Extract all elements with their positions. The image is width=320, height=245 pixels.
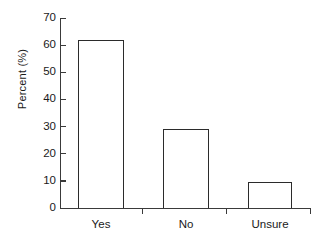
x-tick-1 — [226, 209, 227, 214]
y-tick-label-70: 70 — [16, 12, 56, 24]
y-tick-50 — [61, 72, 66, 73]
y-tick-40 — [61, 99, 66, 100]
y-tick-10 — [61, 180, 66, 181]
x-label-unsure: Unsure — [251, 218, 288, 230]
y-tick-20 — [61, 153, 66, 154]
y-tick-label-50: 50 — [16, 66, 56, 78]
bar-yes — [78, 40, 124, 208]
y-tick-30 — [61, 126, 66, 127]
y-tick-label-60: 60 — [16, 39, 56, 51]
y-tick-label-0: 0 — [16, 202, 56, 214]
x-tick-0 — [142, 209, 143, 214]
y-tick-60 — [61, 45, 66, 46]
y-tick-label-20: 20 — [16, 148, 56, 160]
y-tick-label-40: 40 — [16, 93, 56, 105]
bar-chart: Percent (%) 010203040506070 YesNoUnsure — [0, 0, 320, 245]
y-tick-70 — [61, 18, 66, 19]
bar-no — [163, 129, 209, 208]
x-axis-line — [60, 208, 311, 209]
y-tick-label-30: 30 — [16, 121, 56, 133]
x-label-no: No — [179, 218, 194, 230]
x-label-yes: Yes — [92, 218, 111, 230]
bar-unsure — [248, 182, 292, 208]
x-tick-2 — [310, 209, 311, 214]
y-tick-0 — [61, 208, 66, 209]
y-tick-label-10: 10 — [16, 175, 56, 187]
